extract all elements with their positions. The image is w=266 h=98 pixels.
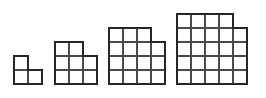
grid-cell — [219, 70, 233, 84]
grid-cell — [123, 70, 137, 84]
grid-cell — [109, 56, 123, 70]
grid-cell — [123, 56, 137, 70]
grid-cell — [205, 56, 219, 70]
grid-cell — [191, 42, 205, 56]
grid-cell — [109, 42, 123, 56]
grid-cell — [177, 14, 191, 28]
grid-cell — [69, 70, 83, 84]
grid-cell — [177, 28, 191, 42]
grid-cell — [233, 28, 247, 42]
grid-cell — [151, 70, 165, 84]
grid-cell — [191, 14, 205, 28]
grid-cell — [14, 70, 28, 84]
grid-cell — [109, 28, 123, 42]
grid-cell — [28, 70, 42, 84]
grid-cell — [55, 42, 69, 56]
grid-cell — [233, 56, 247, 70]
grid-cell — [55, 56, 69, 70]
grid-cell — [69, 42, 83, 56]
grid-cell — [233, 70, 247, 84]
grid-cell — [191, 56, 205, 70]
grid-cell — [219, 28, 233, 42]
grid-cell — [205, 70, 219, 84]
grid-cell — [83, 56, 97, 70]
grid-cell — [151, 56, 165, 70]
grid-cell — [233, 42, 247, 56]
grid-cell — [83, 70, 97, 84]
grid-cell — [14, 56, 28, 70]
grid-cell — [69, 56, 83, 70]
grid-cell — [55, 70, 69, 84]
figure-sequence-canvas — [0, 0, 266, 98]
grid-cell — [219, 56, 233, 70]
grid-cell — [191, 70, 205, 84]
grid-cell — [137, 56, 151, 70]
grid-cell — [205, 14, 219, 28]
grid-cell — [137, 70, 151, 84]
grid-cell — [137, 28, 151, 42]
grid-cell — [205, 28, 219, 42]
grid-cell — [151, 42, 165, 56]
grid-cell — [177, 56, 191, 70]
grid-cell — [219, 42, 233, 56]
grid-cell — [177, 42, 191, 56]
grid-cell — [191, 28, 205, 42]
grid-cell — [123, 28, 137, 42]
grid-cell — [123, 42, 137, 56]
figure-sequence-svg — [0, 0, 266, 98]
grid-cell — [219, 14, 233, 28]
grid-cell — [177, 70, 191, 84]
grid-cell — [205, 42, 219, 56]
grid-cell — [109, 70, 123, 84]
grid-cell — [137, 42, 151, 56]
